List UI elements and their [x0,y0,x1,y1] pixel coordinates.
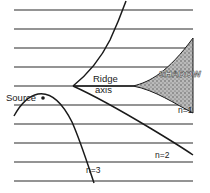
source-point [41,96,45,100]
n1-label: n=1 [178,105,193,115]
n3-label: n=3 [86,165,101,175]
ridge-label-line1: Ridge [93,73,118,84]
ray-n3 [14,94,94,183]
ray-diagram: SHADOW Source Ridge axis n=1 n=2 n=3 [0,0,210,193]
shadow-label: SHADOW [159,69,202,79]
ridge-label-line2: axis [95,84,112,95]
source-label: Source [6,92,36,103]
n2-label: n=2 [155,150,170,160]
